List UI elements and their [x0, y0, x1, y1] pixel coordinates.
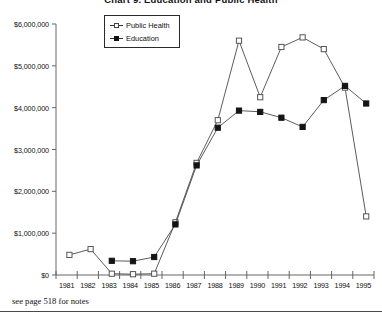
- x-axis-tick-label: 1991: [271, 281, 286, 290]
- y-axis-tick-label: $2,000,000: [0, 187, 49, 196]
- x-axis-tick-label: 1994: [335, 281, 350, 290]
- legend-item-public-health: Public Health: [110, 19, 179, 32]
- bottom-divider: [0, 311, 382, 312]
- y-axis-tick-label: $0: [0, 271, 49, 280]
- y-axis-tick-label: $6,000,000: [0, 20, 49, 29]
- x-axis-tick-label: 1995: [356, 281, 371, 290]
- chart-page: Chart 9. Education and Public Health $0$…: [0, 0, 382, 317]
- filled-square-marker-icon: [110, 34, 123, 43]
- x-axis-tick-label: 1986: [165, 281, 180, 290]
- x-axis-tick-label: 1984: [123, 281, 138, 290]
- x-axis-tick-label: 1993: [313, 281, 328, 290]
- open-square-marker-icon: [110, 21, 123, 30]
- chart-plot-area: $0$1,000,000$2,000,000$3,000,000$4,000,0…: [0, 0, 382, 295]
- y-axis-tick-label: $4,000,000: [0, 103, 49, 112]
- legend-label: Public Health: [126, 21, 170, 30]
- y-axis-tick-label: $5,000,000: [0, 61, 49, 70]
- legend-item-education: Education: [110, 32, 179, 45]
- chart-footnote: see page 518 for notes: [12, 296, 89, 306]
- x-axis-tick-label: 1988: [207, 281, 222, 290]
- x-axis-tick-label: 1981: [59, 281, 74, 290]
- legend-label: Education: [126, 34, 159, 43]
- x-axis-tick-label: 1990: [250, 281, 265, 290]
- chart-svg: [0, 0, 382, 295]
- chart-legend: Public Health Education: [104, 15, 180, 48]
- x-axis-tick-label: 1985: [144, 281, 159, 290]
- x-axis-tick-label: 1987: [186, 281, 201, 290]
- x-axis-tick-label: 1989: [229, 281, 244, 290]
- y-axis-tick-label: $3,000,000: [0, 145, 49, 154]
- y-axis-tick-label: $1,000,000: [0, 229, 49, 238]
- x-axis-tick-label: 1982: [80, 281, 95, 290]
- x-axis-tick-label: 1983: [101, 281, 116, 290]
- x-axis-tick-label: 1992: [292, 281, 307, 290]
